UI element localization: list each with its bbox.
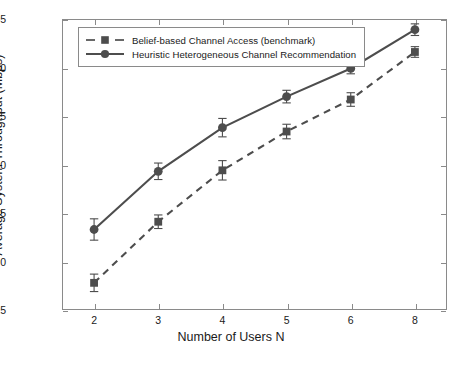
x-tick-mark xyxy=(159,20,160,25)
y-tick-label: 15 xyxy=(0,304,6,316)
y-tick-mark xyxy=(63,214,68,215)
x-tick-mark xyxy=(288,304,289,309)
y-tick-mark xyxy=(441,20,446,21)
x-tick-mark xyxy=(352,20,353,25)
y-tick-mark xyxy=(63,311,68,312)
y-tick-mark xyxy=(441,69,446,70)
x-tick-mark xyxy=(159,304,160,309)
legend-key-dashed-square xyxy=(85,33,125,47)
y-tick-label: 40 xyxy=(0,62,6,74)
legend: Belief-based Channel Access (benchmark) … xyxy=(78,27,365,67)
x-tick-mark xyxy=(223,304,224,309)
x-tick-mark xyxy=(416,20,417,25)
figure-chart: Average System Throughput (Mbps) Number … xyxy=(0,0,462,368)
x-tick-mark xyxy=(416,304,417,309)
legend-item-benchmark: Belief-based Channel Access (benchmark) xyxy=(85,33,356,47)
legend-label-benchmark: Belief-based Channel Access (benchmark) xyxy=(132,35,315,46)
x-tick-mark xyxy=(95,304,96,309)
y-tick-mark xyxy=(63,166,68,167)
x-tick-mark xyxy=(352,304,353,309)
y-tick-label: 25 xyxy=(0,207,6,219)
x-tick-label: 2 xyxy=(91,314,97,326)
y-tick-label: 30 xyxy=(0,159,6,171)
x-tick-mark xyxy=(95,20,96,25)
y-tick-mark xyxy=(63,20,68,21)
x-tick-label: 4 xyxy=(219,314,225,326)
y-tick-mark xyxy=(441,166,446,167)
y-tick-label: 45 xyxy=(0,13,6,25)
y-tick-mark xyxy=(441,311,446,312)
y-tick-mark xyxy=(63,69,68,70)
x-tick-mark xyxy=(288,20,289,25)
legend-key-solid-circle xyxy=(85,47,125,61)
x-axis-title: Number of Users N xyxy=(178,330,285,344)
legend-label-heuristic: Heuristic Heterogeneous Channel Recommen… xyxy=(132,49,356,60)
legend-item-heuristic: Heuristic Heterogeneous Channel Recommen… xyxy=(85,47,356,61)
y-tick-mark xyxy=(441,263,446,264)
y-tick-mark xyxy=(441,117,446,118)
y-axis-title: Average System Throughput (Mbps) xyxy=(0,54,5,255)
x-tick-label: 8 xyxy=(412,314,418,326)
y-tick-mark xyxy=(441,214,446,215)
y-tick-mark xyxy=(63,117,68,118)
x-tick-label: 3 xyxy=(155,314,161,326)
y-tick-label: 35 xyxy=(0,110,6,122)
y-tick-mark xyxy=(63,263,68,264)
figure-caption xyxy=(0,352,462,368)
x-tick-mark xyxy=(223,20,224,25)
x-tick-label: 6 xyxy=(348,314,354,326)
x-tick-label: 5 xyxy=(284,314,290,326)
y-tick-label: 20 xyxy=(0,256,6,268)
